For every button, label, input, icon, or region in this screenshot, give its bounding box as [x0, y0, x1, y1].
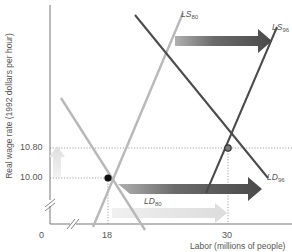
ls80-curve: [93, 13, 183, 227]
ld80-label-main: LD: [144, 196, 155, 206]
y-tick-1080: 10.80: [20, 142, 43, 152]
x-tick-30: 30: [222, 230, 232, 240]
ls96-label: LS96: [272, 22, 289, 33]
x-axis-label: Labor (millions of people): [190, 241, 285, 251]
ls96-label-sub: 96: [282, 27, 289, 33]
y-tick-1000: 10.00: [20, 172, 43, 182]
demand-shift-arrow-icon: [118, 177, 262, 201]
ld96-label-sub: 96: [278, 177, 285, 183]
wage-increase-arrow-icon: [49, 146, 65, 177]
ls80-label-sub: 80: [191, 14, 198, 20]
ld96-label: LD96: [267, 172, 285, 183]
equilibrium-1996-point: [225, 145, 231, 151]
labor-market-diagram: [0, 0, 292, 252]
x-tick-18: 18: [102, 230, 112, 240]
y-axis-label: Real wage rate (1992 dollars per hour): [4, 26, 16, 186]
equilibrium-1980-point: [104, 174, 111, 181]
ls96-curve: [206, 27, 277, 193]
ld80-curve: [61, 98, 145, 230]
origin-label: 0: [39, 230, 44, 240]
supply-shift-arrow-icon: [175, 29, 272, 53]
shift-arrows: [49, 29, 272, 223]
ls96-label-main: LS: [272, 22, 282, 32]
ld80-label-sub: 80: [155, 201, 162, 207]
ld96-label-main: LD: [267, 172, 278, 182]
ls80-label-main: LS: [181, 9, 191, 19]
ls80-label: LS80: [181, 9, 198, 20]
ld80-label: LD80: [144, 196, 162, 207]
